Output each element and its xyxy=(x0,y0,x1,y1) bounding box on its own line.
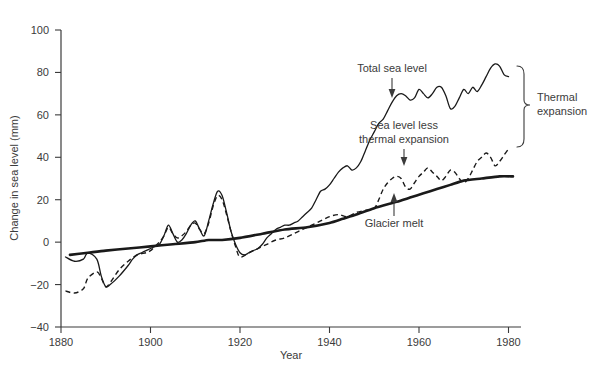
y-tick-label: 60 xyxy=(37,109,49,121)
series-glacier-melt xyxy=(70,176,513,255)
annotation-total-sea-level-arrow-head xyxy=(389,89,396,98)
series-sea-level-less-thermal-expansion xyxy=(65,149,508,293)
x-tick-label: 1940 xyxy=(317,336,341,348)
x-tick-label: 1920 xyxy=(228,336,252,348)
x-tick-labels: 188019001920194019601980 xyxy=(49,336,521,348)
y-tick-label: 100 xyxy=(31,24,49,36)
annotation-thermal-expansion: Thermal expansion xyxy=(517,66,587,147)
annotation-sea-level-less-arrow-head xyxy=(401,157,408,166)
thermal-expansion-brace xyxy=(517,66,530,147)
y-tick-marks xyxy=(55,30,61,327)
sea-level-chart: −40−20020406080100 188019001920194019601… xyxy=(0,0,590,371)
series-total-sea-level xyxy=(65,64,508,287)
data-series-group xyxy=(65,64,512,293)
x-tick-label: 1900 xyxy=(138,336,162,348)
annotation-thermal-expansion-line2: expansion xyxy=(537,105,587,117)
chart-canvas: −40−20020406080100 188019001920194019601… xyxy=(0,0,590,371)
y-tick-label: 0 xyxy=(43,236,49,248)
y-tick-label: −20 xyxy=(30,279,49,291)
annotation-sea-level-less-line2: thermal expansion xyxy=(359,133,449,145)
x-axis-title: Year xyxy=(280,349,303,361)
annotation-total-sea-level-label: Total sea level xyxy=(357,62,427,74)
y-tick-label: 80 xyxy=(37,66,49,78)
y-tick-label: 20 xyxy=(37,194,49,206)
x-tick-label: 1960 xyxy=(407,336,431,348)
y-axis-title: Change in sea level (mm) xyxy=(8,115,20,240)
x-tick-label: 1980 xyxy=(496,336,520,348)
x-tick-marks xyxy=(61,327,509,333)
annotation-sea-level-less-line1: Sea level less xyxy=(370,119,438,131)
annotation-thermal-expansion-line1: Thermal xyxy=(537,91,577,103)
annotation-sea-level-less-thermal-expansion: Sea level less thermal expansion xyxy=(359,119,449,166)
y-tick-labels: −40−20020406080100 xyxy=(30,24,49,333)
y-tick-label: 40 xyxy=(37,151,49,163)
y-tick-label: −40 xyxy=(30,321,49,333)
annotation-glacier-melt-label: Glacier melt xyxy=(365,217,424,229)
x-tick-label: 1880 xyxy=(49,336,73,348)
annotation-glacier-melt-arrow-head xyxy=(391,193,398,202)
annotation-glacier-melt: Glacier melt xyxy=(365,193,424,229)
